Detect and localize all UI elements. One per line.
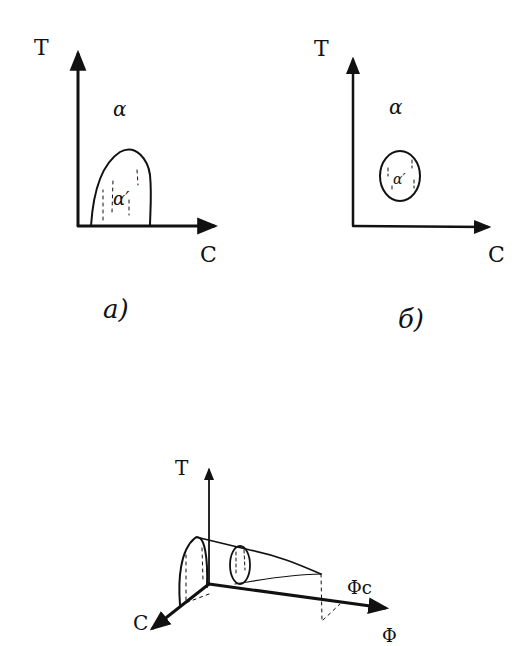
panel-3d-phi-label: Φ [382, 625, 397, 646]
panel-a-alpha-label: α [113, 97, 127, 121]
panel-3d-section-hatching [236, 550, 245, 576]
phase-diagram-figure: T C α α′ a) T C α α′ б) T C Φ Φc [0, 0, 529, 646]
panel-b-alpha-label: α [389, 95, 403, 119]
panel-b-caption: б) [398, 304, 424, 334]
panel-3d-cone-top-edge [196, 537, 321, 574]
panel-a-alpha-prime-label: α′ [113, 188, 129, 209]
panel-a-t-label: T [34, 35, 49, 60]
panel-3d-critical-projection [321, 574, 340, 620]
panel-3d-t-label: T [175, 456, 189, 480]
panel-b-t-label: T [314, 36, 329, 61]
panel-3d-cross-section [230, 546, 250, 584]
panel-b-alpha-prime-label: α′ [393, 171, 406, 187]
panel-a: T C α α′ a) [34, 35, 217, 324]
panel-3d-c-label: C [133, 611, 148, 635]
panel-a-c-label: C [200, 242, 217, 267]
panel-b-c-label: C [488, 242, 505, 267]
panel-3d: T C Φ Φc [133, 456, 397, 646]
panel-b: T C α α′ б) [314, 36, 505, 334]
panel-3d-phi-c-label: Φc [347, 577, 372, 598]
panel-b-c-axis [353, 226, 488, 227]
panel-a-caption: a) [103, 294, 129, 324]
panel-3d-c-axis [153, 584, 209, 628]
